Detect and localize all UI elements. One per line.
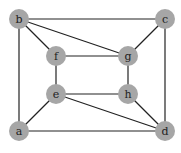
node-label: d (161, 125, 168, 138)
node-a: a (9, 121, 29, 141)
edge-b-g (19, 19, 128, 56)
node-f: f (46, 46, 66, 66)
node-g: g (118, 46, 138, 66)
node-label: g (124, 50, 131, 63)
node-label: e (53, 88, 60, 101)
node-label: h (124, 88, 131, 101)
node-c: c (155, 9, 175, 29)
nodes: bcfgehad (9, 9, 175, 141)
node-h: h (118, 84, 138, 104)
node-label: c (162, 13, 168, 26)
edges (19, 19, 165, 131)
graph-diagram: bcfgehad (0, 0, 181, 153)
node-b: b (9, 9, 29, 29)
node-e: e (46, 84, 66, 104)
edge-e-d (56, 94, 165, 131)
node-label: b (15, 13, 22, 26)
node-d: d (155, 121, 175, 141)
node-label: a (16, 125, 23, 138)
